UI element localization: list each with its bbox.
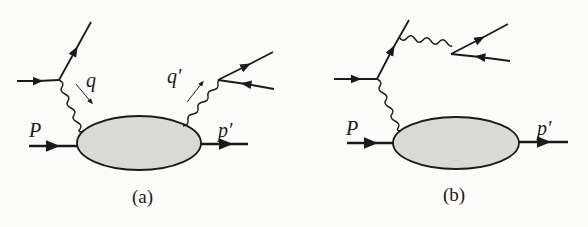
lepton-pair-out-2	[451, 54, 510, 61]
photon-exchange-wavy	[377, 79, 401, 131]
panel-b	[334, 20, 568, 169]
lepton-pair-out-1	[218, 52, 273, 80]
lepton-pair-out-1	[451, 24, 508, 54]
outgoing-lepton-line	[377, 20, 409, 79]
lepton-pair-out-2	[218, 80, 274, 89]
photon-radiated-wavy	[399, 36, 452, 46]
caption-a: (a)	[132, 187, 153, 206]
label-qprime: q′	[167, 66, 181, 86]
incoming-lepton-line	[17, 80, 59, 81]
photon-qprime-wavy	[183, 80, 221, 126]
hadron-blob	[393, 117, 519, 169]
label-pprime: p′	[218, 120, 232, 140]
qprime-momentum-arrow	[187, 83, 202, 102]
hadron-blob	[77, 116, 201, 170]
label-P: P	[346, 118, 358, 138]
panel-a	[17, 22, 274, 170]
label-P: P	[29, 120, 41, 140]
feynman-diagrams	[0, 0, 588, 227]
label-q: q	[86, 70, 96, 90]
caption-b: (b)	[443, 185, 465, 204]
label-pprime: p′	[537, 118, 551, 138]
